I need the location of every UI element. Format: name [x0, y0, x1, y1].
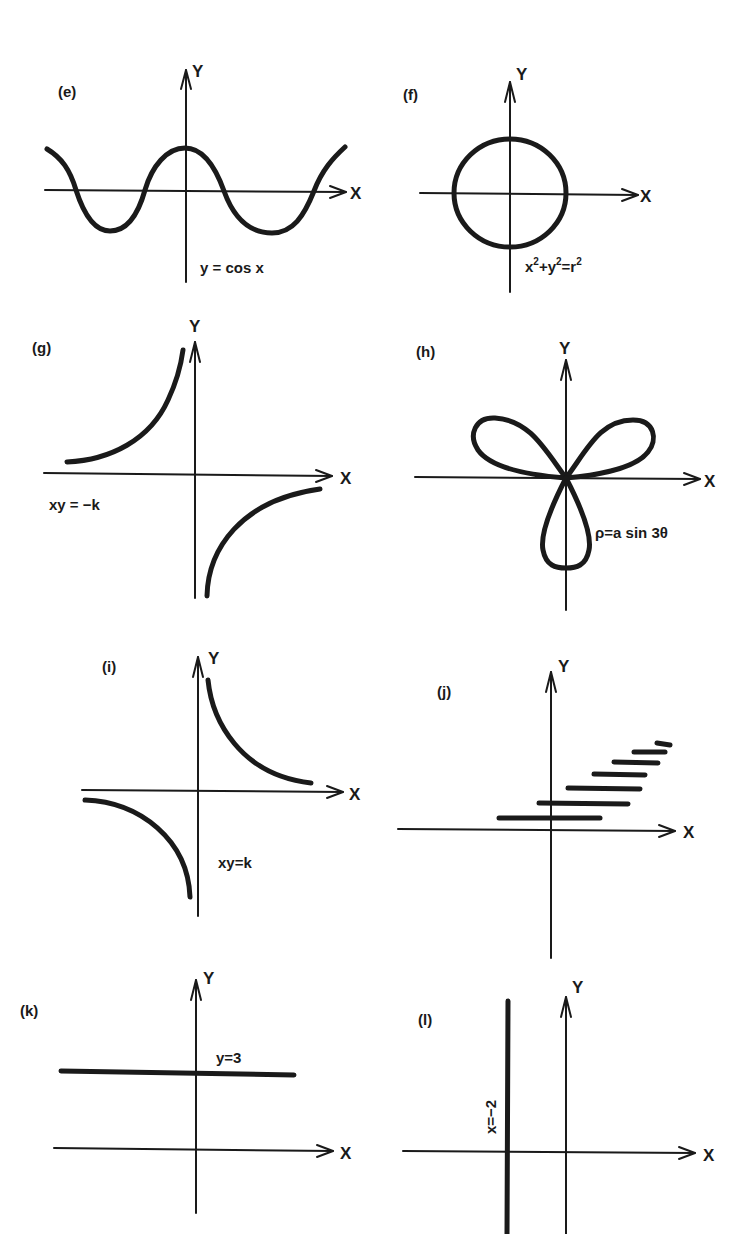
panel-j: (j) Y X [398, 657, 695, 958]
horizontal-line-y3 [61, 1071, 294, 1075]
panel-g: (g) Y X xy = −k [32, 317, 352, 598]
equation-label: xy = −k [49, 496, 101, 513]
x-axis-label: X [349, 785, 361, 804]
panel-label-f: (f) [403, 86, 418, 103]
y-axis-label: Y [516, 65, 528, 84]
segment-7 [657, 743, 670, 745]
panel-label-j: (j) [437, 683, 451, 700]
x-axis-label: X [350, 184, 362, 203]
rose-petal-upper-left [473, 418, 566, 478]
rose-petal-upper-right [566, 420, 653, 478]
panel-f: (f) Y X x2+y2=r2 [403, 65, 652, 292]
segment-3 [568, 788, 640, 789]
x-axis-label: X [340, 469, 352, 488]
equation-label: xy=k [218, 854, 252, 871]
hyperbola-branch-lower-right [207, 489, 320, 596]
x-axis-label: X [640, 187, 652, 206]
panel-label-g: (g) [32, 339, 51, 356]
x-axis [403, 1151, 695, 1153]
x-axis [82, 790, 343, 792]
panel-label-i: (i) [102, 658, 116, 675]
panel-label-k: (k) [20, 1002, 38, 1019]
panel-e: (e) Y X y = cos x [45, 62, 362, 282]
y-axis-label: Y [203, 969, 215, 988]
panel-h: (h) Y X ρ=a sin 3θ [415, 339, 716, 610]
hyperbola-branch-upper-left [67, 350, 183, 462]
equation-label: y = cos x [200, 259, 264, 276]
segment-4 [594, 774, 645, 775]
x-axis-label: X [683, 823, 695, 842]
graph-sheet: (e) Y X y = cos x (f) Y X x2+y2=r2 (g) Y… [0, 0, 747, 1234]
x-axis-label: X [340, 1144, 352, 1163]
y-axis-label: Y [192, 62, 204, 81]
y-axis-label: Y [572, 978, 584, 997]
x-axis [45, 190, 346, 192]
equation-label: x=−2 [482, 1100, 499, 1134]
x-axis [44, 473, 332, 476]
panel-label-l: (l) [418, 1011, 432, 1028]
equation-label: ρ=a sin 3θ [595, 524, 668, 541]
vertical-line-x-minus-2 [507, 1001, 508, 1234]
x-axis-label: X [704, 472, 716, 491]
panel-i: (i) Y X xy=k [82, 649, 361, 916]
segment-2 [539, 803, 628, 804]
y-axis-label: Y [558, 657, 570, 676]
y-axis-label: Y [208, 649, 220, 668]
segment-5 [614, 762, 658, 763]
hyperbola-branch-upper-right [208, 680, 311, 783]
x-axis [398, 829, 675, 831]
panel-label-h: (h) [416, 343, 435, 360]
panel-l: (l) Y X x=−2 [403, 978, 715, 1234]
y-axis-label: Y [189, 317, 201, 336]
panel-k: (k) Y X y=3 [20, 969, 352, 1213]
hyperbola-branch-lower-left [85, 800, 190, 897]
x-axis [54, 1148, 333, 1151]
x-axis-label: X [703, 1146, 715, 1165]
equation-label: x2+y2=r2 [525, 256, 582, 275]
panel-label-e: (e) [58, 83, 76, 100]
equation-label: y=3 [216, 1049, 241, 1066]
y-axis-label: Y [559, 339, 571, 358]
